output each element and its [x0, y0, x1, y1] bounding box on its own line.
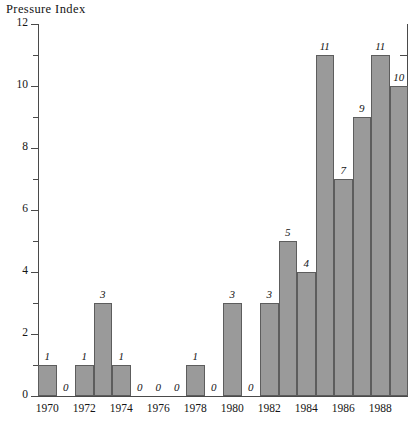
plot-area: [38, 24, 408, 396]
bar-value-label: 3: [86, 288, 121, 300]
y-axis-tick-major: [31, 24, 38, 25]
y-axis-tick-major: [31, 396, 38, 397]
bar: [316, 55, 335, 396]
bar-value-label: 3: [252, 288, 287, 300]
bar-value-label: 7: [326, 164, 361, 176]
bar-value-label: 4: [289, 257, 324, 269]
y-axis-tick-label: 4: [2, 264, 28, 276]
bar-value-label: 0: [49, 381, 84, 393]
x-axis-tick-label: 1988: [360, 402, 400, 414]
y-axis-tick-label: 8: [2, 140, 28, 152]
bar-value-label: 5: [271, 226, 306, 238]
y-axis-tick-major: [31, 334, 38, 335]
y-axis-tick-major: [31, 210, 38, 211]
pressure-index-bar-chart: Pressure Index 024681012 197019721974197…: [0, 0, 418, 430]
bar-value-label: 3: [215, 288, 250, 300]
x-axis-tick-label: 1982: [249, 402, 289, 414]
bar: [390, 86, 409, 396]
bar: [334, 179, 353, 396]
x-axis-tick-label: 1972: [64, 402, 104, 414]
y-axis-tick-label: 12: [2, 16, 28, 28]
x-axis-line: [38, 396, 408, 397]
y-axis-tick-label: 10: [2, 78, 28, 90]
bar-value-label: 1: [104, 350, 139, 362]
x-axis-tick-label: 1970: [27, 402, 67, 414]
bar-value-label: 0: [197, 381, 232, 393]
x-axis-tick-label: 1978: [175, 402, 215, 414]
y-axis-tick-label: 0: [2, 388, 28, 400]
y-axis-tick-label: 6: [2, 202, 28, 214]
bar-value-label: 0: [234, 381, 269, 393]
bar: [297, 272, 316, 396]
bar-value-label: 1: [30, 350, 65, 362]
y-axis-tick-major: [31, 86, 38, 87]
y-axis-labels: 024681012: [0, 0, 28, 430]
y-axis-tick-major: [31, 272, 38, 273]
x-axis-tick-label: 1986: [323, 402, 363, 414]
bar-value-label: 11: [363, 40, 398, 52]
bar-value-label: 10: [382, 71, 417, 83]
bar-value-label: 1: [67, 350, 102, 362]
bar-value-label: 9: [345, 102, 380, 114]
bar-value-label: 11: [308, 40, 343, 52]
x-axis-tick-label: 1984: [286, 402, 326, 414]
bar-value-label: 0: [160, 381, 195, 393]
x-axis-tick-label: 1980: [212, 402, 252, 414]
bar-value-label: 1: [178, 350, 213, 362]
x-axis-tick-label: 1976: [138, 402, 178, 414]
x-axis-tick-label: 1974: [101, 402, 141, 414]
y-axis-tick-major: [31, 148, 38, 149]
y-axis-tick-label: 2: [2, 326, 28, 338]
bar: [353, 117, 372, 396]
